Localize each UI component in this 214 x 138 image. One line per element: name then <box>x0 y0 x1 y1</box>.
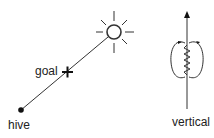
vertical-label: vertical <box>172 116 210 128</box>
goal-label: goal <box>35 65 58 77</box>
sun-icon <box>96 11 134 53</box>
hive-label: hive <box>8 119 30 131</box>
hive-dot-icon <box>18 107 24 113</box>
